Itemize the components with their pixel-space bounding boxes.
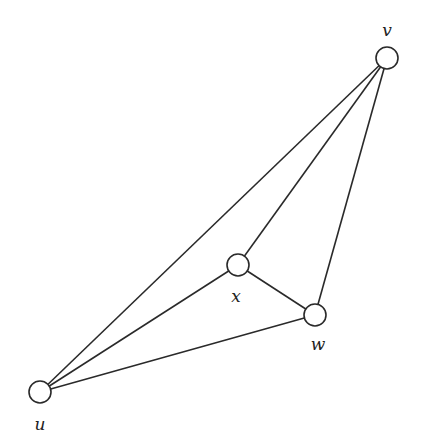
- node-w: [304, 304, 326, 326]
- edge-u-v: [40, 58, 387, 392]
- node-label-w: w: [311, 334, 326, 354]
- edge-w-v: [315, 58, 387, 315]
- edge-x-v: [238, 58, 387, 265]
- node-label-v: v: [382, 20, 392, 40]
- labels-layer: vxwu: [35, 20, 393, 434]
- edge-u-x: [40, 265, 238, 392]
- edge-u-w: [40, 315, 315, 392]
- edge-x-w: [238, 265, 315, 315]
- graph-diagram: vxwu: [0, 0, 422, 441]
- node-label-x: x: [231, 286, 241, 306]
- node-u: [29, 381, 51, 403]
- node-x: [227, 254, 249, 276]
- node-v: [376, 47, 398, 69]
- node-label-u: u: [35, 414, 46, 434]
- edges-layer: [40, 58, 387, 392]
